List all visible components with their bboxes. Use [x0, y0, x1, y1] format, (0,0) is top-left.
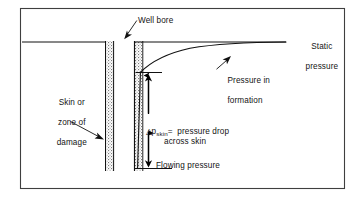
skin-zone-label: Skin or zone of damage: [36, 88, 98, 158]
static-pressure-label: Static pressure: [296, 32, 338, 82]
static-pressure-label-line1: Static: [311, 42, 332, 51]
delta-p-equation-text: = pressure drop: [168, 127, 229, 136]
skin-zone-label-line2: zone of: [58, 118, 86, 127]
skin-zone-label-line3: damage: [57, 138, 87, 147]
delta-p-equation-text-line2: across skin: [136, 137, 229, 147]
pressure-in-formation-label: Pressure in formation: [218, 66, 270, 116]
delta-p-skin-equation: △pskin= pressure dropacross skin: [136, 116, 229, 167]
flowing-pressure-label: Flowing pressure: [156, 161, 220, 171]
skin-zone-label-line1: Skin or: [59, 98, 85, 107]
well-bore-leader-arrow: [124, 21, 137, 40]
pressure-in-formation-label-line2: formation: [228, 96, 263, 105]
skin-zone-left: [105, 41, 114, 171]
delta-p-subscript: skin: [156, 130, 167, 137]
well-bore-label: Well bore: [138, 16, 173, 26]
static-pressure-label-line2: pressure: [306, 62, 339, 71]
pressure-skin-diagram: Well bore Static pressure Pressure in fo…: [0, 0, 357, 199]
pressure-in-formation-label-line1: Pressure in: [228, 76, 271, 85]
